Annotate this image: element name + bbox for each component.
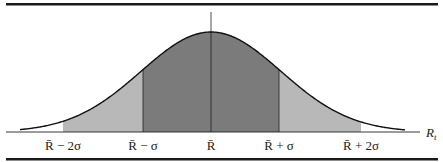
top-rule (6, 3, 438, 6)
tick-label-plus-1sigma: R̄ + σ (264, 138, 294, 153)
normal-distribution-diagram: Rt R̄ − 2σ R̄ − σ R̄ R̄ + σ R̄ + 2σ (0, 0, 443, 162)
tick-label-plus-2sigma: R̄ + 2σ (343, 138, 379, 153)
tick-labels: R̄ − 2σ R̄ − σ R̄ R̄ + σ R̄ + 2σ (45, 138, 379, 153)
x-axis-label: Rt (425, 125, 437, 142)
bottom-rule (6, 158, 438, 161)
tick-label-minus-2sigma: R̄ − 2σ (45, 138, 81, 153)
tick-label-minus-1sigma: R̄ − σ (128, 138, 158, 153)
tick-label-mean: R̄ (207, 138, 216, 153)
